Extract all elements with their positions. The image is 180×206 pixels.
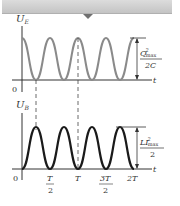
- tick-3half-T-num: 3T: [100, 174, 111, 183]
- tick-0: 0: [13, 174, 18, 183]
- tick-half-T-num: T: [47, 174, 53, 183]
- bottom-x-label: t: [153, 165, 157, 174]
- bottom-plot: UB t LI2max 2 0 T 2 T 3T 2 2T: [12, 99, 164, 195]
- top-x-label: t: [153, 76, 157, 85]
- tick-3half-T-den: 2: [103, 186, 108, 195]
- top-amplitude-denominator: 2C: [144, 61, 156, 70]
- tick-half-T-den: 2: [48, 186, 53, 195]
- tick-T: T: [75, 174, 81, 183]
- tick-2T: 2T: [126, 174, 138, 183]
- top-y-label: UE: [16, 13, 29, 25]
- energy-diagram: UE t 0 Q2max 2C UB t LI2max 2 0: [0, 0, 180, 206]
- bottom-amplitude-denominator: 2: [150, 150, 155, 159]
- ub-curve: [22, 127, 134, 169]
- bottom-y-label: UB: [16, 99, 29, 111]
- bottom-amplitude-numerator: LI2max: [139, 136, 158, 147]
- top-origin-label: 0: [12, 85, 17, 94]
- pointer-icon: [83, 14, 93, 19]
- top-plot: UE t 0 Q2max 2C: [12, 13, 162, 94]
- top-amplitude-numerator: Q2max: [140, 47, 156, 58]
